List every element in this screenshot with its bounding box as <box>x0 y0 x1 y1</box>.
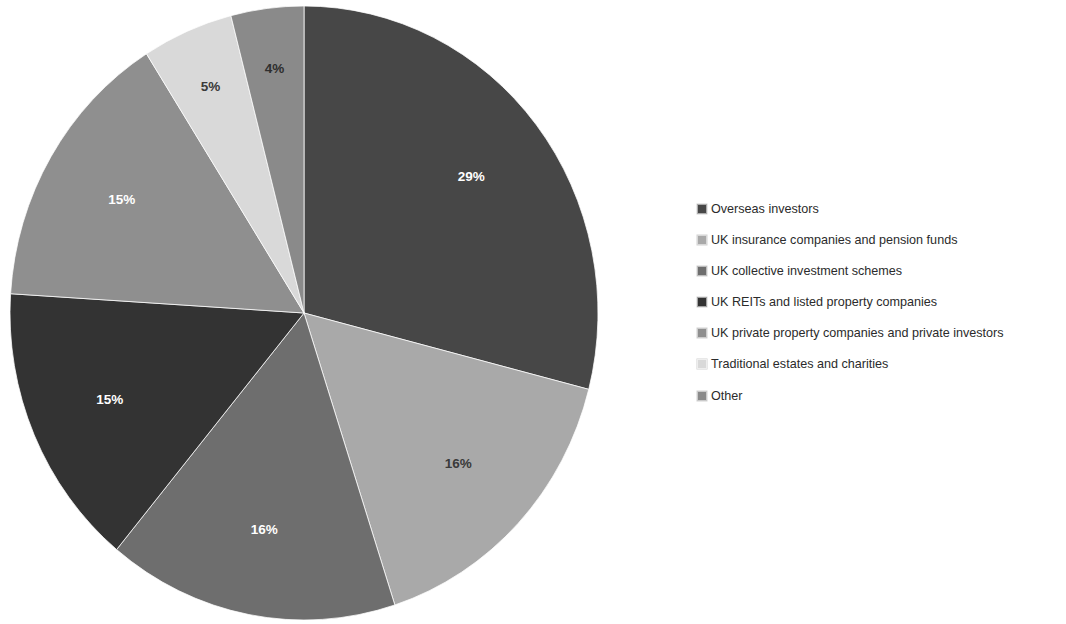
legend-swatch-icon <box>697 204 707 214</box>
legend-item[interactable]: Other <box>697 387 1057 404</box>
legend-swatch-icon <box>697 359 707 369</box>
legend-item[interactable]: UK private property companies and privat… <box>697 325 1057 342</box>
pie-slice-label: 4% <box>265 61 285 76</box>
pie-slice-label: 29% <box>458 169 485 184</box>
legend-swatch-icon <box>697 391 707 401</box>
legend-item-label: UK insurance companies and pension funds <box>711 233 957 247</box>
legend-item-label: Traditional estates and charities <box>711 357 888 371</box>
legend-item[interactable]: UK insurance companies and pension funds <box>697 231 1057 248</box>
legend-item[interactable]: UK REITs and listed property companies <box>697 294 1057 311</box>
pie-slice-label: 16% <box>445 456 472 471</box>
legend-item[interactable]: Traditional estates and charities <box>697 356 1057 373</box>
legend-swatch-icon <box>697 235 707 245</box>
legend-item[interactable]: UK collective investment schemes <box>697 262 1057 279</box>
pie-slice-label: 5% <box>201 79 221 94</box>
legend-item-label: UK private property companies and privat… <box>711 326 1004 340</box>
pie-chart: 29%16%16%15%15%5%4% Overseas investorsUK… <box>0 0 1066 624</box>
legend-item-label: UK REITs and listed property companies <box>711 295 937 309</box>
pie-slice-label: 15% <box>96 392 123 407</box>
legend-item-label: Overseas investors <box>711 202 819 216</box>
legend-item[interactable]: Overseas investors <box>697 200 1057 217</box>
legend-swatch-icon <box>697 297 707 307</box>
legend-swatch-icon <box>697 328 707 338</box>
pie-plot-area: 29%16%16%15%15%5%4% <box>0 0 620 624</box>
pie-svg: 29%16%16%15%15%5%4% <box>0 0 620 624</box>
legend-item-label: Other <box>711 389 743 403</box>
chart-legend: Overseas investorsUK insurance companies… <box>697 200 1057 418</box>
legend-item-label: UK collective investment schemes <box>711 264 902 278</box>
pie-slices-group <box>10 6 598 620</box>
pie-slice-label: 15% <box>108 192 135 207</box>
legend-swatch-icon <box>697 266 707 276</box>
pie-slice-label: 16% <box>251 522 278 537</box>
